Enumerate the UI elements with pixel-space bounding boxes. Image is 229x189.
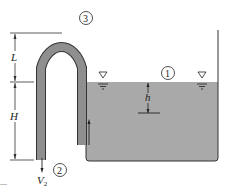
outflow-arrow-icon [41, 168, 44, 173]
L-label: L [10, 51, 17, 63]
L-arrow-top-icon [14, 34, 17, 39]
velocity-label: V2 [37, 174, 48, 188]
figure-caption-fragment: — [0, 180, 7, 187]
point-1-marker: 1 [162, 67, 175, 80]
H-arrow-top-icon [14, 83, 17, 88]
H-label: H [9, 110, 19, 122]
point-3-marker: 3 [80, 12, 93, 25]
L-arrow-bottom-icon [14, 76, 17, 81]
svg-text:2: 2 [57, 165, 62, 176]
siphon-tube [41, 47, 82, 160]
H-arrow-bottom-icon [14, 154, 17, 159]
h-label: h [145, 91, 151, 103]
point-2-marker: 2 [54, 164, 67, 177]
svg-text:1: 1 [165, 68, 170, 79]
svg-text:3: 3 [83, 13, 88, 24]
siphon-diagram: L H h V2 3 1 2 [0, 0, 229, 189]
